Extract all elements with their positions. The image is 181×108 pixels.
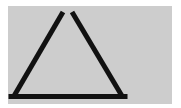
triangle-right-edge	[72, 12, 122, 96]
open-triangle-figure	[0, 0, 181, 108]
triangle-left-edge	[14, 12, 63, 96]
